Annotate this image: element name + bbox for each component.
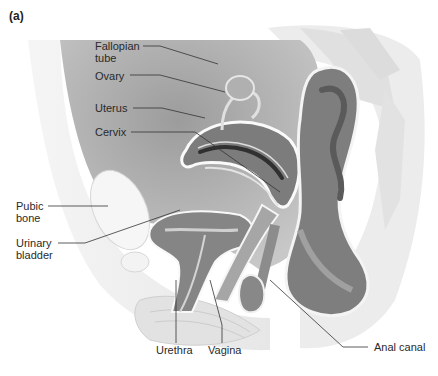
label-cervix: Cervix <box>95 126 126 138</box>
label-uterus: Uterus <box>95 102 127 114</box>
label-pubic-bone: Pubic bone <box>16 200 44 224</box>
label-vagina: Vagina <box>208 344 241 356</box>
label-urethra: Urethra <box>156 344 193 356</box>
label-anal-canal: Anal canal <box>374 341 425 353</box>
panel-label: (a) <box>9 9 24 23</box>
illustration <box>0 0 438 376</box>
anatomy-diagram: (a) Fallopian tube Ovary Uterus Cervix P… <box>0 0 438 376</box>
label-urinary-bladder: Urinary bladder <box>16 237 53 261</box>
label-fallopian-tube: Fallopian tube <box>95 40 140 64</box>
anal-canal-shape <box>239 275 264 312</box>
label-ovary: Ovary <box>95 70 124 82</box>
